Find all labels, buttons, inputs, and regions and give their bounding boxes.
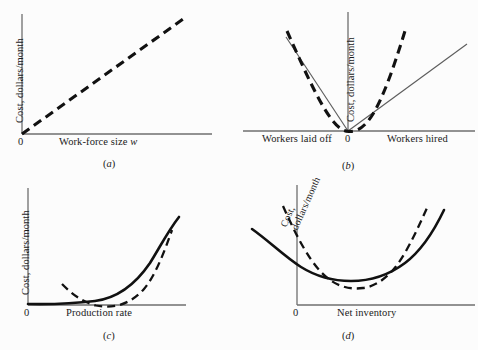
panel-a-plot	[0, 0, 239, 175]
panel-b-y-axis-label: Cost, dollars/month	[345, 37, 356, 122]
panel-d-x-axis-label: Net inventory	[337, 307, 396, 318]
panel-b-x-axis-label-right: Workers hired	[387, 133, 448, 144]
panel-d-origin-label: 0	[293, 307, 298, 318]
panel-b: Cost, dollars/month Workers laid off 0 W…	[239, 0, 478, 180]
figure-cost-functions: Cost, dollars/month 0 Work-force size w …	[0, 0, 478, 350]
panel-c: Cost, dollars/month 0 Production rate (c…	[0, 175, 239, 350]
panel-a-x-axis-label: Work-force size w	[59, 136, 137, 147]
panel-c-x-axis-label: Production rate	[66, 307, 132, 318]
panel-c-y-axis-label: Cost, dollars/month	[20, 210, 31, 295]
panel-b-series-linear-right	[348, 44, 467, 131]
panel-b-caption: (b)	[342, 160, 354, 171]
panel-d-caption: (d)	[342, 330, 354, 341]
panel-b-origin-label: 0	[345, 133, 350, 144]
panel-b-caption-close: )	[351, 160, 355, 171]
panel-c-plot	[0, 175, 239, 350]
panel-c-origin-label: 0	[24, 307, 29, 318]
panel-d: Cost, dollars/month 0 Net inventory (d)	[239, 175, 478, 350]
panel-a-caption-close: )	[112, 158, 116, 169]
panel-a: Cost, dollars/month 0 Work-force size w …	[0, 0, 239, 175]
panel-a-caption: (a)	[103, 158, 115, 169]
panel-a-y-axis-label: Cost, dollars/month	[14, 38, 25, 123]
panel-c-caption-close: )	[111, 330, 115, 341]
panel-b-plot	[239, 0, 478, 180]
panel-b-x-axis-label-left: Workers laid off	[262, 133, 332, 144]
panel-d-plot	[239, 175, 478, 350]
panel-a-x-axis-label-variable: w	[130, 136, 137, 147]
panel-c-series-actual-cost	[28, 217, 179, 304]
panel-a-x-axis-label-text: Work-force size	[59, 136, 130, 147]
panel-a-origin-label: 0	[18, 136, 23, 147]
panel-a-series-linear-work-force-cost	[22, 17, 186, 134]
panel-c-caption: (c)	[103, 330, 115, 341]
panel-d-caption-close: )	[351, 330, 355, 341]
